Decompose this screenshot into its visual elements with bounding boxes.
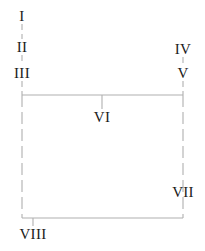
node-label-vii: VII [172,185,194,200]
node-label-v: V [177,66,188,81]
node-label-vi: VI [94,110,110,125]
diagram-canvas: IIIIIIIVVVIVIIVIII [0,0,205,251]
node-label-ii: II [17,40,28,55]
diagram-connectors [0,0,205,251]
node-label-iv: IV [175,42,191,57]
node-label-iii: III [14,66,30,81]
node-label-viii: VIII [19,227,46,242]
node-label-i: I [19,9,24,24]
